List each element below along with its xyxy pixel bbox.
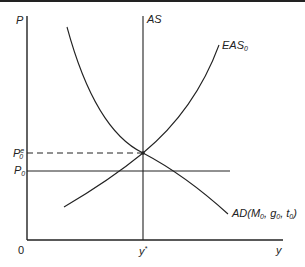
y-axis-label: P <box>16 15 23 26</box>
x-axis-label: y <box>276 245 282 256</box>
eas-curve <box>64 45 219 207</box>
full-employment-output-label: y* <box>139 245 147 257</box>
origin-label: 0 <box>18 245 24 256</box>
actual-price-label: P0 <box>14 165 25 177</box>
ad-label: AD(M0, g0, t0) <box>232 208 297 220</box>
equilibrium-point <box>141 151 145 155</box>
as-label: AS <box>147 14 162 25</box>
diagram-canvas <box>0 0 305 267</box>
ad-curve <box>67 27 228 214</box>
expected-price-label: Pe0 <box>13 147 23 160</box>
eas-label: EAS0 <box>222 40 248 52</box>
